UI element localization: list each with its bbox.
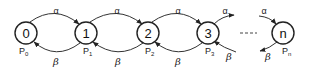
label-alpha-1-2: α	[114, 6, 119, 16]
edge-1-0-beta	[34, 42, 80, 52]
label-alpha-3-out: α	[222, 6, 227, 16]
edge-3-2-beta	[155, 42, 202, 52]
prob-label-1: P1	[83, 46, 93, 57]
state-label-n: n	[279, 26, 286, 41]
label-alpha-2-3: α	[175, 6, 180, 16]
edge-2-1-beta	[93, 42, 143, 52]
edge-in-n-alpha	[259, 16, 276, 24]
label-beta-n-out: β	[264, 51, 271, 62]
label-beta-in-3: β	[225, 51, 232, 62]
prob-label-0: P0	[19, 46, 29, 57]
prob-label-2: P2	[145, 46, 155, 57]
state-node-3: 3	[197, 22, 219, 44]
edge-3-out-alpha	[214, 15, 234, 24]
label-beta-2-1: β	[114, 56, 121, 67]
prob-label-n: Pn	[282, 46, 291, 57]
label-beta-1-0: β	[52, 56, 59, 67]
label-alpha-0-1: α	[53, 6, 58, 16]
state-label-1: 1	[82, 26, 89, 41]
edge-n-out-beta	[260, 42, 277, 51]
prob-label-3: P3	[205, 46, 215, 57]
state-node-1: 1	[75, 22, 97, 44]
state-label-2: 2	[144, 26, 151, 41]
state-label-3: 3	[204, 26, 211, 41]
state-node-0: 0	[15, 22, 37, 44]
state-diagram: α α α α α β β β β β 0 1 2 3 n P0 P1 P2 P…	[0, 0, 309, 70]
state-node-n: n	[272, 22, 294, 44]
label-beta-3-2: β	[174, 56, 181, 67]
state-node-2: 2	[137, 22, 159, 44]
state-label-0: 0	[22, 26, 29, 41]
label-alpha-in-n: α	[261, 6, 266, 16]
edge-in-3-beta	[214, 41, 236, 52]
